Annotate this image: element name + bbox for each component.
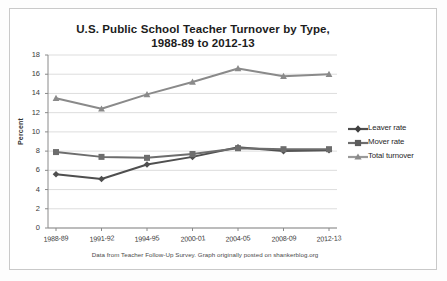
legend-marker-diamond-icon bbox=[348, 121, 368, 133]
data-point-square bbox=[190, 151, 196, 157]
data-point-square bbox=[326, 146, 332, 152]
legend-label-total-turnover: Total turnover bbox=[368, 151, 414, 160]
legend-label-mover-rate: Mover rate bbox=[368, 137, 404, 146]
legend-item-leaver-rate[interactable]: Leaver rate bbox=[348, 120, 444, 134]
legend-item-total-turnover[interactable]: Total turnover bbox=[348, 148, 444, 162]
data-point-square bbox=[281, 146, 287, 152]
data-point-diamond bbox=[144, 161, 151, 168]
chart-figure: U.S. Public School Teacher Turnover by T… bbox=[0, 0, 447, 281]
chart-legend: Leaver rate Mover rate Total turnover bbox=[348, 120, 444, 162]
data-point-square bbox=[99, 154, 105, 160]
legend-marker-triangle-icon bbox=[348, 149, 368, 161]
data-point-square bbox=[53, 149, 59, 155]
legend-label-leaver-rate: Leaver rate bbox=[368, 123, 406, 132]
chart-footnote: Data from Teacher Follow-Up Survey. Grap… bbox=[40, 251, 370, 258]
data-point-diamond bbox=[53, 171, 60, 178]
data-point-square bbox=[235, 145, 241, 151]
data-point-square bbox=[144, 155, 150, 161]
data-point-diamond bbox=[98, 176, 105, 183]
legend-marker-square-icon bbox=[348, 135, 368, 147]
legend-item-mover-rate[interactable]: Mover rate bbox=[348, 134, 444, 148]
